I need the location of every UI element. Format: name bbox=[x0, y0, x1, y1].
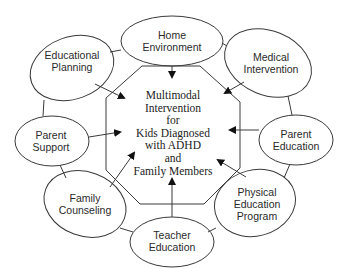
label-home-environment: Home Environment bbox=[143, 29, 202, 53]
diagram-canvas: Multimodal Intervention for Kids Diagnos… bbox=[0, 0, 344, 269]
label-physical-education: Physical Education Program bbox=[234, 186, 281, 222]
label-family-counseling: Family Counseling bbox=[59, 192, 112, 216]
label-educational-planning: Educational Planning bbox=[45, 49, 100, 73]
arrow-parent-support bbox=[89, 132, 120, 137]
ring-line-parentsupport-educational bbox=[43, 100, 44, 116]
label-parent-education: Parent Education bbox=[273, 128, 320, 152]
arrow-medical bbox=[225, 82, 244, 93]
arrow-family-counseling bbox=[110, 153, 134, 187]
center-label: Multimodal Intervention for Kids Diagnos… bbox=[134, 89, 213, 177]
label-teacher-education: Teacher Education bbox=[149, 229, 196, 253]
ring-line-family-parentsupport bbox=[60, 165, 66, 178]
ring-line-medical-parentedu bbox=[288, 96, 292, 115]
label-medical-intervention: Medical Intervention bbox=[244, 51, 299, 75]
ring-line-parentedu-physical bbox=[284, 164, 290, 178]
arrow-physical-education bbox=[218, 160, 246, 177]
label-parent-support: Parent Support bbox=[33, 129, 70, 153]
ring-line-teacher-family bbox=[120, 228, 133, 232]
